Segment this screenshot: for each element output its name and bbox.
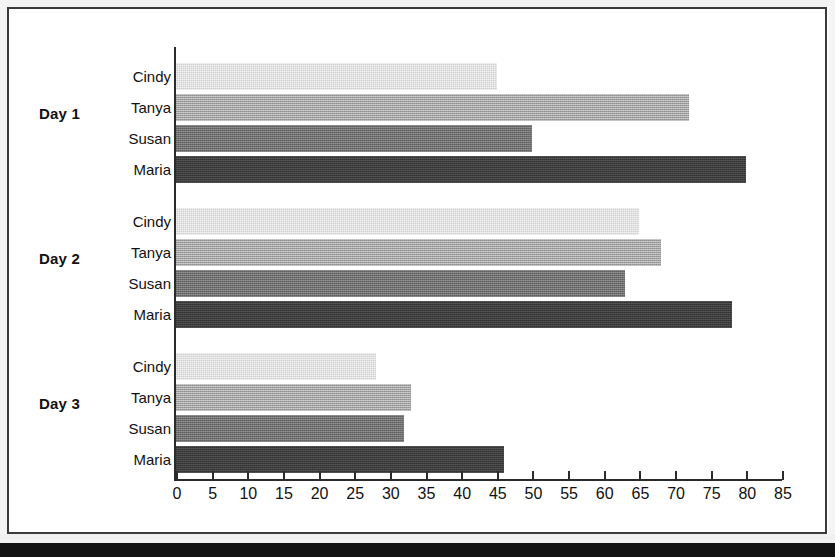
bar-row-label: Tanya <box>71 92 171 123</box>
x-axis-tick-label: 80 <box>727 485 767 503</box>
bar-row: Maria <box>9 154 829 185</box>
bar-row: Tanya <box>9 92 829 123</box>
x-axis-tick <box>283 471 285 480</box>
bar-row-label: Maria <box>71 154 171 185</box>
x-axis-tick-label: 55 <box>549 485 589 503</box>
x-axis-tick <box>639 471 641 480</box>
x-axis-tick <box>532 471 534 480</box>
x-axis-tick-label: 50 <box>513 485 553 503</box>
scanned-page: Day 1 Cindy Tanya Susan Mar <box>0 0 835 557</box>
x-axis-tick <box>390 471 392 480</box>
group-rows-day-3: Cindy Tanya Susan Maria <box>9 351 829 476</box>
bar-row: Tanya <box>9 382 829 413</box>
bar-day-2-susan[interactable] <box>176 270 625 297</box>
x-axis-tick <box>711 471 713 480</box>
x-axis-tick-labels: 0510152025303540455055606570758085 <box>9 485 829 509</box>
chart-group-day-3: Day 3 Cindy Tanya Susan Mar <box>9 351 829 476</box>
bar-row: Tanya <box>9 237 829 268</box>
x-axis-tick-label: 40 <box>442 485 482 503</box>
x-axis-tick-label: 10 <box>228 485 268 503</box>
bar-day-3-tanya[interactable] <box>176 384 411 411</box>
bar-chart: Day 1 Cindy Tanya Susan Mar <box>9 9 829 536</box>
x-axis-ticks <box>9 471 829 481</box>
x-axis-tick-label: 35 <box>407 485 447 503</box>
bar-row: Susan <box>9 268 829 299</box>
group-rows-day-2: Cindy Tanya Susan Maria <box>9 206 829 331</box>
x-axis-tick <box>176 471 178 480</box>
x-axis-tick-label: 5 <box>193 485 233 503</box>
bar-row: Cindy <box>9 351 829 382</box>
x-axis-tick-label: 15 <box>264 485 304 503</box>
bar-day-1-maria[interactable] <box>176 156 746 183</box>
x-axis-tick <box>461 471 463 480</box>
bar-row: Susan <box>9 413 829 444</box>
x-axis-tick-label: 0 <box>157 485 197 503</box>
x-axis-tick <box>426 471 428 480</box>
bar-day-3-cindy[interactable] <box>176 353 376 380</box>
bar-row: Maria <box>9 299 829 330</box>
x-axis-tick-label: 30 <box>371 485 411 503</box>
bar-row-label: Maria <box>71 299 171 330</box>
chart-group-day-1: Day 1 Cindy Tanya Susan Mar <box>9 61 829 186</box>
bar-row: Cindy <box>9 206 829 237</box>
x-axis-tick <box>782 471 784 480</box>
x-axis-tick-label: 20 <box>300 485 340 503</box>
x-axis-tick <box>746 471 748 480</box>
x-axis-tick <box>212 471 214 480</box>
bar-day-1-cindy[interactable] <box>176 63 497 90</box>
bar-day-2-cindy[interactable] <box>176 208 639 235</box>
x-axis-tick <box>604 471 606 480</box>
x-axis-tick-label: 85 <box>763 485 803 503</box>
bar-day-3-maria[interactable] <box>176 446 504 473</box>
x-axis-tick <box>354 471 356 480</box>
x-axis-tick-label: 70 <box>656 485 696 503</box>
bar-day-2-maria[interactable] <box>176 301 732 328</box>
bar-row-label: Cindy <box>71 351 171 382</box>
bar-row-label: Tanya <box>71 382 171 413</box>
bar-row-label: Tanya <box>71 237 171 268</box>
x-axis-tick <box>497 471 499 480</box>
bar-row-label: Cindy <box>71 206 171 237</box>
x-axis-tick <box>675 471 677 480</box>
bar-row: Cindy <box>9 61 829 92</box>
x-axis-tick <box>568 471 570 480</box>
bar-day-1-tanya[interactable] <box>176 94 689 121</box>
x-axis-tick-label: 60 <box>585 485 625 503</box>
bar-row: Susan <box>9 123 829 154</box>
group-rows-day-1: Cindy Tanya Susan Maria <box>9 61 829 186</box>
x-axis-tick-label: 45 <box>478 485 518 503</box>
x-axis-tick-label: 25 <box>335 485 375 503</box>
page-gutter-gap <box>0 534 835 543</box>
chart-group-day-2: Day 2 Cindy Tanya Susan Mar <box>9 206 829 331</box>
bar-row-label: Cindy <box>71 61 171 92</box>
x-axis-tick-label: 75 <box>692 485 732 503</box>
bar-day-3-susan[interactable] <box>176 415 404 442</box>
scan-edge-top <box>0 0 835 7</box>
bar-row-label: Susan <box>71 268 171 299</box>
x-axis-tick <box>319 471 321 480</box>
page-bottom-black-band <box>0 543 835 557</box>
x-axis-tick <box>247 471 249 480</box>
figure-frame: Day 1 Cindy Tanya Susan Mar <box>7 7 827 534</box>
x-axis-tick-label: 65 <box>620 485 660 503</box>
bar-day-2-tanya[interactable] <box>176 239 661 266</box>
scan-edge-right <box>829 0 835 535</box>
bar-row-label: Susan <box>71 123 171 154</box>
bar-day-1-susan[interactable] <box>176 125 532 152</box>
scan-edge-left <box>0 0 7 535</box>
bar-row-label: Susan <box>71 413 171 444</box>
